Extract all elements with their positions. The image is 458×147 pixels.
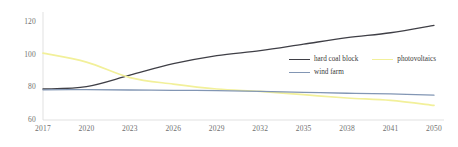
y-tick-label-100: 100 [14,50,36,59]
y-tick-label-80: 80 [14,82,36,91]
legend-item-photovoltaics: photovoltaics [372,54,436,64]
x-tick-label-2050: 2050 [419,124,449,133]
series-line-wind-farm [43,90,434,96]
legend-label-photovoltaics: photovoltaics [397,54,436,64]
x-tick-label-2038: 2038 [332,124,362,133]
legend-swatch-photovoltaics [372,59,393,60]
y-tick-label-120: 120 [14,17,36,26]
x-tick-label-2023: 2023 [115,124,145,133]
x-tick-label-2032: 2032 [245,124,275,133]
y-tick-label-60: 60 [14,115,36,124]
legend-row-2: wind farm [289,67,436,77]
line-chart: 1201008060 20172020202320262029203220352… [0,0,458,147]
legend-label-wind-farm: wind farm [314,67,344,77]
legend-swatch-wind-farm [289,72,310,73]
x-tick-label-2017: 2017 [28,124,58,133]
x-tick-label-2020: 2020 [71,124,101,133]
x-tick-label-2026: 2026 [158,124,188,133]
x-tick-label-2041: 2041 [376,124,406,133]
legend-swatch-hard-coal-block [289,59,310,60]
chart-legend: hard coal block photovoltaics wind farm [289,54,436,77]
legend-item-wind-farm: wind farm [289,67,344,77]
legend-item-hard-coal-block: hard coal block [289,54,358,64]
x-tick-label-2029: 2029 [202,124,232,133]
legend-row-1: hard coal block photovoltaics [289,54,436,64]
legend-label-hard-coal-block: hard coal block [314,54,358,64]
x-tick-label-2035: 2035 [289,124,319,133]
